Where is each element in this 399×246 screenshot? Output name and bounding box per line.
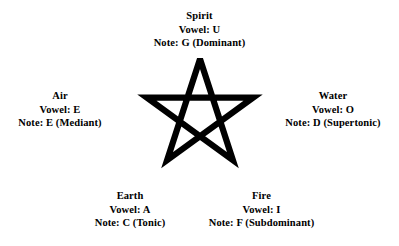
label-block-fire: Fire Vowel: I Note: F (Subdominant)	[190, 189, 333, 230]
pentagram-svg	[126, 58, 276, 190]
element-vowel-water: Vowel: O	[267, 103, 399, 117]
pentagram-figure	[126, 58, 276, 190]
element-vowel-spirit: Vowel: U	[0, 23, 399, 37]
element-note-earth: Note: C (Tonic)	[73, 216, 187, 230]
element-vowel-earth: Vowel: A	[73, 203, 187, 217]
element-name-water: Water	[267, 89, 399, 103]
pentagram-path	[147, 59, 253, 160]
element-note-spirit: Note: G (Dominant)	[0, 36, 399, 50]
element-vowel-air: Vowel: E	[0, 103, 120, 117]
element-note-air: Note: E (Mediant)	[0, 116, 120, 130]
element-name-fire: Fire	[190, 189, 333, 203]
pentagram-diagram: Spirit Vowel: U Note: G (Dominant) Air V…	[0, 0, 399, 246]
element-name-spirit: Spirit	[0, 9, 399, 23]
element-vowel-fire: Vowel: I	[190, 203, 333, 217]
element-name-earth: Earth	[73, 189, 187, 203]
label-block-water: Water Vowel: O Note: D (Supertonic)	[267, 89, 399, 130]
label-block-earth: Earth Vowel: A Note: C (Tonic)	[73, 189, 187, 230]
element-note-water: Note: D (Supertonic)	[267, 116, 399, 130]
element-note-fire: Note: F (Subdominant)	[190, 216, 333, 230]
element-name-air: Air	[0, 89, 120, 103]
label-block-spirit: Spirit Vowel: U Note: G (Dominant)	[0, 9, 399, 50]
label-block-air: Air Vowel: E Note: E (Mediant)	[0, 89, 120, 130]
